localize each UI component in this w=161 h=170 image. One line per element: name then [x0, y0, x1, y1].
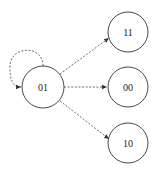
state-node-01-label: 01 — [38, 82, 48, 93]
state-diagram: 01 11 00 10 — [0, 0, 161, 170]
state-node-11: 11 — [108, 12, 148, 52]
state-node-00: 00 — [108, 67, 148, 107]
state-node-01: 01 — [22, 66, 64, 108]
state-node-10-label: 10 — [123, 138, 133, 149]
state-node-10: 10 — [108, 123, 148, 163]
state-node-11-label: 11 — [123, 27, 133, 38]
state-node-00-label: 00 — [123, 82, 133, 93]
edge-01-to-11 — [60, 38, 109, 74]
edge-01-to-10 — [60, 101, 109, 139]
